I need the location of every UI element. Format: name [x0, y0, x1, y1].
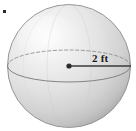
- sphere-center-dot: [66, 63, 71, 68]
- radius-label: 2 ft: [92, 53, 108, 64]
- sphere-diagram-figure: 2 ft: [0, 0, 136, 131]
- bullet-mark-icon: [3, 10, 6, 13]
- sphere-illustration: [0, 0, 136, 131]
